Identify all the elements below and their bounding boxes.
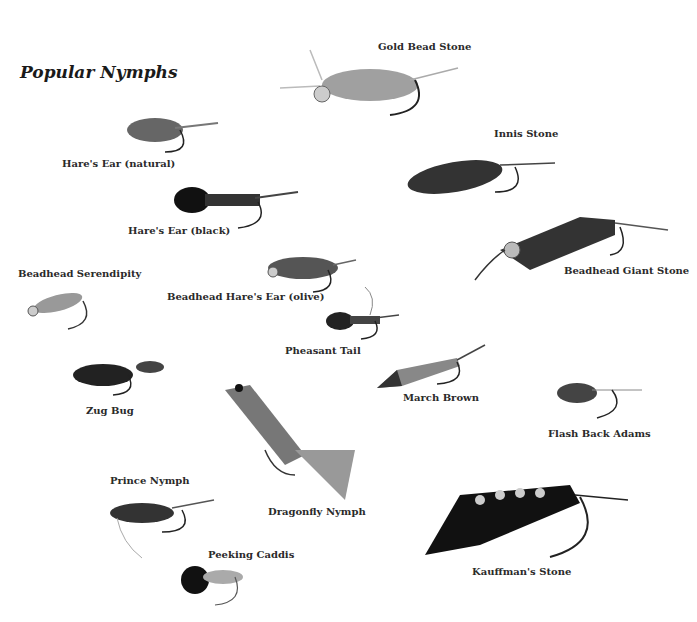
page-title: Popular Nymphs bbox=[20, 62, 177, 82]
fly-label: Peeking Caddis bbox=[208, 549, 294, 560]
innis-stone-image bbox=[405, 145, 555, 200]
fly-label: Gold Bead Stone bbox=[378, 41, 471, 52]
hares-ear-black-image bbox=[170, 180, 300, 230]
fly-label: Beadhead Serendipity bbox=[18, 268, 141, 279]
zug-bug-image bbox=[68, 355, 168, 400]
fly-label: Prince Nymph bbox=[110, 475, 190, 486]
hares-ear-natural-image bbox=[120, 108, 220, 153]
fly-label: March Brown bbox=[403, 392, 479, 403]
fly-label: Hare's Ear (black) bbox=[128, 225, 230, 236]
fly-label: Pheasant Tail bbox=[285, 345, 361, 356]
fly-label: Flash Back Adams bbox=[548, 428, 651, 439]
dragonfly-nymph-image bbox=[215, 380, 365, 505]
beadhead-serendipity-image bbox=[18, 283, 98, 333]
march-brown-image bbox=[372, 340, 487, 395]
peeking-caddis-image bbox=[175, 562, 250, 607]
fly-label: Hare's Ear (natural) bbox=[62, 158, 175, 169]
pheasant-tail-image bbox=[315, 285, 400, 340]
fly-label: Beadhead Giant Stone bbox=[564, 265, 689, 276]
fly-label: Innis Stone bbox=[494, 128, 558, 139]
fly-label: Kauffman's Stone bbox=[472, 566, 571, 577]
fly-label: Dragonfly Nymph bbox=[268, 506, 366, 517]
kauffmans-stone-image bbox=[420, 475, 630, 565]
gold-bead-stone-image bbox=[270, 40, 460, 120]
fly-label: Zug Bug bbox=[86, 405, 134, 416]
fly-label: Beadhead Hare's Ear (olive) bbox=[167, 291, 324, 302]
prince-nymph-image bbox=[102, 490, 217, 560]
flash-back-adams-image bbox=[552, 368, 647, 423]
